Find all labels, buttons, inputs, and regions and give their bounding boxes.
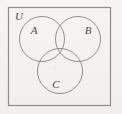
set-b-circle: [56, 17, 101, 62]
set-b-label: B: [85, 24, 92, 36]
venn-diagram-figure: U A B C: [0, 0, 122, 114]
venn-canvas: U A B C: [0, 0, 122, 114]
universe-label: U: [15, 10, 24, 22]
set-c-circle: [38, 49, 83, 94]
set-a-label: A: [30, 24, 38, 36]
set-c-label: C: [52, 78, 60, 90]
set-a-circle: [20, 17, 65, 62]
universe-rectangle: [9, 8, 111, 106]
